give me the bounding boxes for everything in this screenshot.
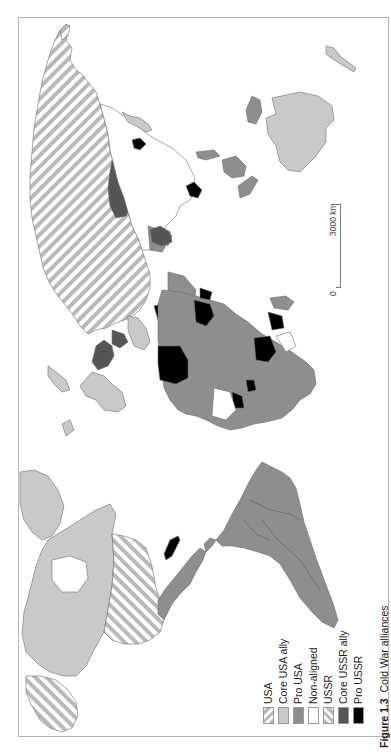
legend-item-pro-usa: Pro USA	[292, 584, 306, 724]
region-indonesia-b	[238, 176, 258, 198]
region-cuba	[164, 536, 180, 560]
region-usa	[104, 534, 164, 644]
legend-swatch-usa	[263, 707, 274, 724]
scale-line	[340, 204, 341, 288]
legend: USA Core USA ally Pro USA Non-aligned US…	[262, 584, 372, 724]
scale-end-label: 3000 km	[328, 203, 338, 236]
legend-swatch-pro-ussr	[353, 707, 364, 724]
region-eastern-europe	[92, 340, 114, 370]
region-australia	[266, 92, 334, 172]
legend-label: Pro USA	[292, 663, 304, 704]
region-greenland	[20, 470, 64, 540]
legend-swatch-ussr	[323, 707, 334, 724]
figure-caption: Figure 1.3 Cold War alliances	[378, 605, 390, 748]
legend-label: Pro USSR	[352, 656, 364, 704]
region-malaysia	[196, 150, 220, 160]
legend-swatch-pro-usa	[293, 707, 304, 724]
region-norway	[48, 366, 70, 392]
region-mexico	[158, 548, 206, 620]
legend-swatch-core-usa-ally	[278, 707, 289, 724]
scale-start-label: 0	[328, 291, 338, 296]
legend-item-ussr: USSR	[322, 584, 336, 724]
caption-title: Cold War alliances	[378, 605, 390, 692]
region-eastern-europe-b	[112, 330, 128, 348]
legend-label: Non-aligned	[307, 647, 319, 704]
region-philippines	[246, 96, 262, 124]
legend-item-pro-ussr: Pro USSR	[352, 584, 366, 724]
region-ussr-east	[60, 24, 70, 40]
region-mozambique	[268, 312, 284, 330]
region-alaska	[26, 676, 78, 732]
scale-tick-start	[336, 287, 341, 288]
region-central-america	[204, 538, 216, 552]
region-uk	[62, 420, 74, 436]
region-new-zealand	[326, 46, 356, 72]
region-madagascar	[270, 296, 294, 310]
scale-bar: 0 3000 km	[318, 196, 348, 296]
legend-swatch-core-ussr-ally	[338, 707, 349, 724]
region-indonesia-a	[222, 156, 246, 178]
legend-item-non-aligned: Non-aligned	[307, 584, 321, 724]
region-western-europe	[80, 372, 126, 412]
legend-item-core-ussr-ally: Core USSR ally	[337, 584, 351, 724]
region-libya	[158, 346, 188, 384]
legend-label: Core USA ally	[277, 639, 289, 704]
legend-item-core-usa-ally: Core USA ally	[277, 584, 291, 724]
caption-number: Figure 1.3	[378, 698, 390, 748]
legend-label: USA	[262, 682, 274, 704]
legend-label: USSR	[322, 675, 334, 704]
region-congo	[246, 380, 256, 392]
legend-label: Core USSR ally	[337, 630, 349, 704]
region-turkey	[128, 316, 150, 350]
legend-swatch-non-aligned	[308, 707, 319, 724]
legend-item-usa: USA	[262, 584, 276, 724]
region-sudan-north	[200, 288, 212, 300]
